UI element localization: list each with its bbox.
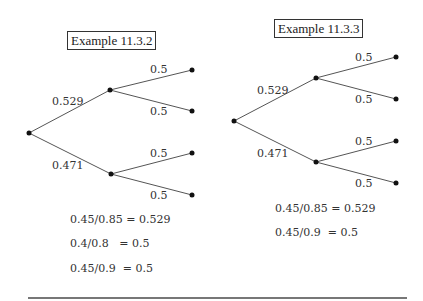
tree-2-leaf-label-1: 0.5 — [355, 51, 373, 64]
example-2-equation-2: 0.45/0.9 = 0.5 — [275, 226, 358, 239]
tree-2-branch-lower-label: 0.471 — [257, 147, 289, 160]
tree-1-leaf-label-2: 0.5 — [150, 105, 168, 118]
probability-trees — [0, 0, 423, 301]
tree-1-nodes — [27, 68, 195, 198]
tree-2-leaf-label-3: 0.5 — [355, 135, 373, 148]
tree-2-leaf-label-4: 0.5 — [355, 177, 373, 190]
example-2-equation-1: 0.45/0.85 = 0.529 — [275, 202, 375, 215]
tree-1-leaf-label-3: 0.5 — [150, 147, 168, 160]
tree-1-leaf-label-4: 0.5 — [150, 189, 168, 202]
tree-2-branch-upper-label: 0.529 — [257, 84, 289, 97]
bottom-divider — [28, 297, 407, 299]
example-1-equation-3: 0.45/0.9 = 0.5 — [70, 262, 153, 275]
tree-2-nodes — [232, 55, 399, 186]
tree-1-leaf-label-1: 0.5 — [150, 63, 168, 76]
tree-1-branch-lower-label: 0.471 — [52, 159, 84, 172]
tree-2-leaf-label-2: 0.5 — [355, 93, 373, 106]
example-1-equation-1: 0.45/0.85 = 0.529 — [70, 213, 170, 226]
example-1-equation-2: 0.4/0.8 = 0.5 — [70, 237, 149, 250]
tree-1-branch-upper-label: 0.529 — [52, 95, 84, 108]
